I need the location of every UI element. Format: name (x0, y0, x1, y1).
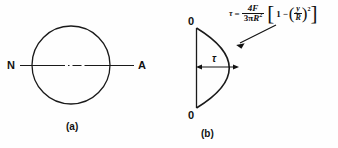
shear-stress-equation: τ = 4F 3πR2 [ 1 − ( y R ) 2 ] (229, 4, 317, 24)
equation-bracket-first-term: 1 (274, 9, 282, 19)
equation-bracket-operator: − (282, 9, 289, 19)
equation-denominator-exponent: 2 (259, 12, 262, 18)
equation-main-fraction: 4F 3πR2 (242, 4, 264, 24)
tau-arrowhead-right (233, 64, 239, 69)
equation-pointer-arrowhead (236, 43, 244, 49)
equation-inner-numerator: y (295, 5, 301, 13)
label-axis-a: A (138, 60, 146, 71)
equation-bracket-contents: 1 − ( y R ) 2 (274, 5, 310, 22)
figure-container: N A (a) 0 0 τ (b) τ = 4F 3πR2 [ 1 − ( y … (0, 0, 338, 148)
equation-inner-denominator: R (294, 14, 301, 22)
label-neutral-n: N (7, 60, 15, 71)
equation-bracket-close: ] (310, 6, 317, 21)
equation-equals-sign: = (234, 9, 242, 19)
equation-bracket-open: [ (267, 6, 274, 21)
caption-panel-a: (a) (66, 122, 78, 132)
equation-denominator: 3πR2 (242, 14, 264, 23)
label-zero-top: 0 (188, 16, 194, 27)
equation-denominator-coeff: 3π (244, 13, 253, 23)
equation-inner-fraction: y R (294, 5, 301, 22)
label-tau-interior: τ (212, 54, 216, 64)
label-zero-bottom: 0 (188, 110, 194, 121)
caption-panel-b: (b) (201, 129, 214, 139)
equation-pointer-line (240, 25, 276, 43)
